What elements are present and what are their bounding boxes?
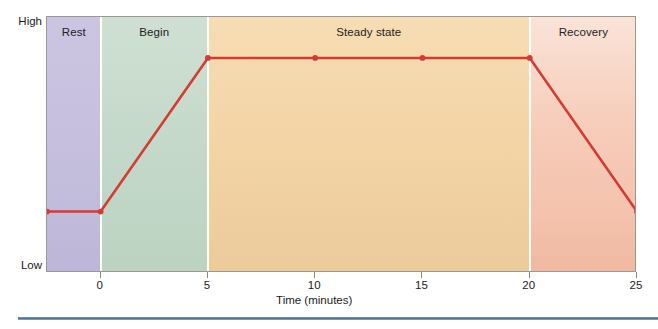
data-point-marker	[527, 55, 533, 61]
data-point-marker	[312, 55, 318, 61]
trace-markers	[46, 55, 636, 214]
x-axis-tick-label: 25	[630, 278, 643, 292]
figure: High Low Rest Begin Steady state Recover…	[0, 0, 658, 329]
x-axis-title: Time (minutes)	[276, 293, 352, 307]
x-axis-tick-label: 5	[204, 278, 210, 292]
x-axis-tick-label: 10	[308, 278, 321, 292]
plot-area: Rest Begin Steady state Recovery	[46, 16, 636, 272]
data-line-chart	[47, 17, 636, 272]
y-axis-label-high: High	[8, 15, 42, 28]
x-axis-tick-label: 20	[522, 278, 535, 292]
data-point-marker	[420, 55, 426, 61]
x-axis-tick-label: 0	[96, 278, 102, 292]
y-axis-label-low: Low	[8, 259, 42, 272]
x-axis: 0510152025Time (minutes)	[46, 272, 636, 312]
data-point-marker	[46, 209, 50, 215]
x-axis-tick-label: 15	[415, 278, 428, 292]
data-point-marker	[98, 209, 104, 215]
bottom-rule-divider	[18, 317, 658, 320]
trace-line	[47, 58, 636, 212]
data-point-marker	[205, 55, 211, 61]
